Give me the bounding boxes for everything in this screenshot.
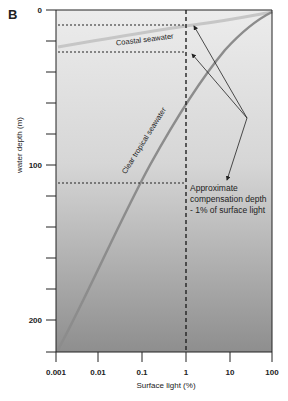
y-tick-label-100: 100 [29,161,43,170]
x-tick-label-0.01: 0.01 [90,368,106,377]
y-axis-title: water depth (m) [15,117,24,174]
x-tick-label-0.001: 0.001 [46,368,67,377]
x-tick-label-10: 10 [226,368,235,377]
y-tick-label-0: 0 [38,6,43,15]
plot-area [56,10,272,352]
x-tick-label-0.1: 0.1 [136,368,148,377]
compensation-depth-annotation: Approximate compensation depth - 1% of s… [190,183,270,216]
y-ticks [46,41,56,320]
x-ticks [56,352,230,362]
x-axis-title: Surface light (%) [136,381,195,390]
x-tick-label-100: 100 [265,368,279,377]
x-tick-label-1: 1 [184,368,189,377]
y-tick-label-200: 200 [29,316,43,325]
